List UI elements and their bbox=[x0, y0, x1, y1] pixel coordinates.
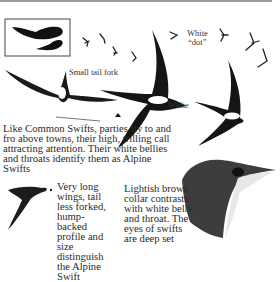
swift-head-portrait-icon bbox=[182, 160, 276, 238]
pointer-arrow-icon bbox=[115, 113, 121, 117]
distant-swift-flock-icon bbox=[83, 29, 267, 67]
label-small-tail-fork: Small tail fork bbox=[69, 68, 118, 77]
swift-side-profile-icon bbox=[8, 187, 47, 230]
caption-wings: Very long wings, tail less forked, hump-… bbox=[57, 182, 109, 282]
caption-collar: Lightish brown collar contrasts with whi… bbox=[124, 184, 194, 244]
pointer-arrow-icon bbox=[50, 189, 52, 191]
caption-parties: Like Common Swifts, parties fly to and f… bbox=[3, 124, 173, 174]
label-white: White bbox=[168, 101, 189, 110]
label-white-dot-2: “dot” bbox=[188, 38, 206, 47]
swift-side-profile-icon bbox=[56, 117, 100, 121]
swift-underside-illustration-icon bbox=[194, 60, 244, 146]
size-comparison-silhouettes-icon bbox=[5, 19, 70, 56]
